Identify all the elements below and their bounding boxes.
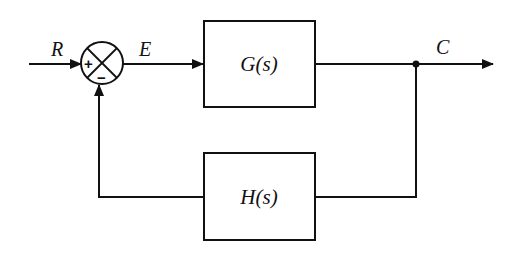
forward-block-g: G(s) bbox=[204, 21, 315, 107]
feedback-block-label: H(s) bbox=[239, 185, 277, 209]
minus-sign: − bbox=[97, 69, 106, 86]
feedback-path-left bbox=[99, 85, 204, 197]
output-label-c: C bbox=[436, 36, 450, 58]
input-label-r: R bbox=[50, 38, 63, 60]
forward-block-label: G(s) bbox=[240, 52, 277, 76]
feedback-block-h: H(s) bbox=[204, 153, 315, 240]
summing-junction: + − bbox=[81, 42, 123, 86]
plus-sign: + bbox=[84, 55, 93, 72]
block-diagram: R + − E G(s) C H(s) bbox=[0, 0, 521, 253]
error-label-e: E bbox=[138, 38, 151, 60]
feedback-path-right bbox=[315, 64, 416, 197]
